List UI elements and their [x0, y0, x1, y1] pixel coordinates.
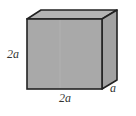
cuboid-diagram: 2a 2a a — [0, 0, 136, 116]
side-face — [102, 10, 117, 89]
height-label: 2a — [7, 47, 19, 61]
front-face — [27, 19, 102, 89]
depth-label: a — [110, 81, 116, 95]
width-label: 2a — [59, 91, 71, 105]
